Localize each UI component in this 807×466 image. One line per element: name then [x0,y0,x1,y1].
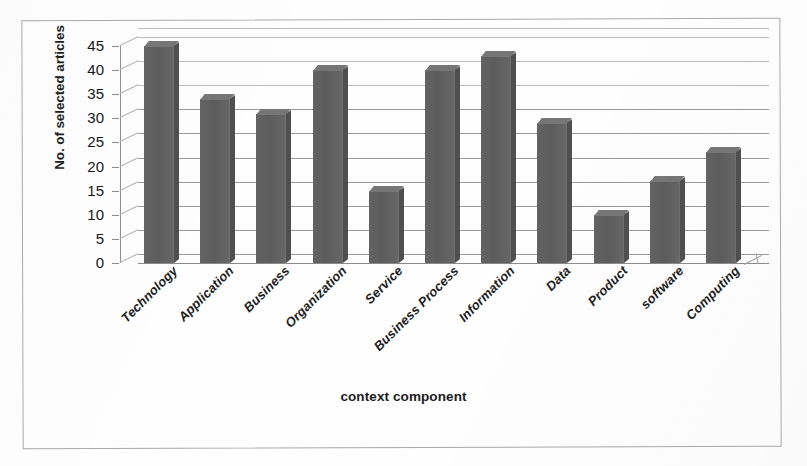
y-tick-mark [112,142,119,143]
bar[interactable] [706,152,736,263]
bar-side-face [230,95,235,263]
bar-side-face [399,187,404,263]
y-tick-label: 5 [78,231,104,246]
depth-connector [120,157,138,167]
plot-area [120,46,765,263]
depth-connector [120,253,138,263]
x-category-label: Product [584,263,630,309]
bar-side-face [511,52,516,263]
bar-slot [650,46,680,263]
bar-chart: No. of selected articles 051015202530354… [0,0,807,466]
bar-side-face [455,66,460,263]
y-tick-mark [112,191,119,192]
bar-slot [144,46,174,263]
bar-slot [481,46,511,263]
y-tick-label: 20 [78,159,104,174]
x-category-label: Information [456,263,518,325]
y-tick-label: 35 [78,86,104,101]
bar[interactable] [313,70,343,263]
y-tick-label: 10 [78,207,104,222]
x-category-label: Data [543,263,574,294]
depth-connector [120,181,138,191]
depth-connector [120,60,138,70]
bar-slot [256,46,286,263]
bar-slot [200,46,230,263]
bar-side-face [736,148,741,263]
bar-slot [425,46,455,263]
bar-side-face [567,119,572,263]
depth-connector [120,229,138,239]
x-category-label: Business [241,263,293,315]
depth-connector [120,205,138,215]
bar-side-face [624,211,629,263]
x-category-label: Technology [118,263,181,326]
x-category-label: Application [175,263,236,324]
bar[interactable] [200,99,230,263]
bar-series [138,46,765,263]
y-tick-mark [112,167,119,168]
depth-connector [120,36,138,46]
y-tick-mark [112,70,119,71]
y-tick-mark [112,46,119,47]
y-axis-line [120,46,121,263]
bar-side-face [343,66,348,263]
gridline [138,37,769,38]
bar[interactable] [369,191,399,263]
y-tick-label: 30 [78,110,104,125]
y-tick-mark [112,118,119,119]
bar-slot [706,46,736,263]
bar[interactable] [256,114,286,263]
gridline [138,28,769,29]
depth-connector [120,133,138,143]
bar[interactable] [425,70,455,263]
y-tick-mark [112,215,119,216]
x-axis-category-labels: TechnologyApplicationBusinessOrganizatio… [120,263,780,383]
bar[interactable] [481,56,511,263]
bar-side-face [286,110,291,263]
bar-slot [313,46,343,263]
y-tick-label: 25 [78,134,104,149]
y-tick-label: 40 [78,62,104,77]
x-category-label: software [637,263,686,312]
bar[interactable] [594,215,624,263]
bar-side-face [174,42,179,263]
x-category-label: Service [362,263,406,307]
x-category-label: Computing [683,263,743,323]
bar[interactable] [537,123,567,263]
bar-slot [369,46,399,263]
y-tick-label: 45 [78,38,104,53]
bar-side-face [680,177,685,263]
bar-slot [537,46,567,263]
bar-slot [594,46,624,263]
y-tick-mark [112,94,119,95]
y-tick-label: 15 [78,183,104,198]
y-axis-title: No. of selected articles [52,0,67,203]
figure-root: No. of selected articles 051015202530354… [0,0,807,466]
y-tick-mark [112,263,119,264]
depth-connector [120,85,138,95]
y-tick-label: 0 [78,255,104,270]
depth-connector [120,109,138,119]
bar[interactable] [650,181,680,263]
y-tick-mark [112,239,119,240]
bar[interactable] [144,46,174,263]
x-axis-title: context component [0,389,807,404]
